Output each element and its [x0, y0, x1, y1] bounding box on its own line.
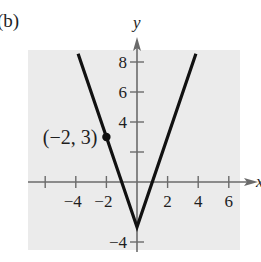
y-tick-label: −4 [109, 233, 128, 252]
x-tick-label: 2 [163, 192, 172, 211]
x-tick-label: −2 [94, 192, 112, 211]
chart: (b) −4−2246864−4xy(−2, 3) [0, 0, 261, 262]
point-label: (−2, 3) [43, 126, 98, 149]
data-point [102, 133, 110, 141]
x-tick-label: −4 [64, 192, 83, 211]
y-tick-label: 6 [119, 83, 128, 102]
points [102, 133, 110, 141]
y-tick-label: 8 [119, 53, 128, 72]
y-tick-label: 4 [119, 113, 128, 132]
x-tick-label: 4 [194, 192, 203, 211]
y-axis-label: y [131, 13, 141, 32]
x-tick-label: 6 [225, 192, 234, 211]
x-axis-label: x [255, 172, 261, 191]
panel-label: (b) [0, 10, 19, 32]
